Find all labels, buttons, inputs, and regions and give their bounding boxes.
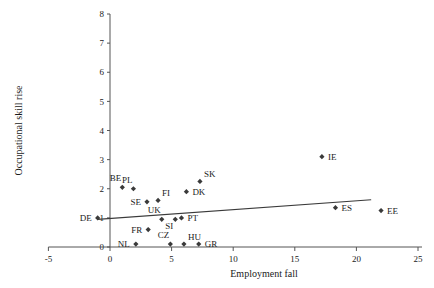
point-marker-pl [131,186,136,191]
point-marker-pt [179,215,184,220]
point-marker-gr [196,241,201,246]
point-label-gr: GR [205,239,218,249]
x-tick-label: 15 [290,254,300,264]
point-label-pt: PT [187,213,198,223]
point-marker-ie [319,154,324,159]
x-tick-label: 20 [352,254,362,264]
point-marker-be [120,185,125,190]
point-marker-hu [181,241,186,246]
point-label-se: SE [130,197,141,207]
point-label-dk: DK [192,187,205,197]
point-marker-nl [133,241,138,246]
point-marker-fr [146,227,151,232]
point-marker-dk [184,189,189,194]
point-label-uk: UK [148,205,161,215]
point-label-hu: HU [188,232,201,242]
point-label-ie: IE [328,152,337,162]
x-tick-label: -5 [45,254,53,264]
x-tick-label: 25 [414,254,424,264]
y-tick-label: 2 [100,184,105,194]
point-label-nl: NL [118,239,130,249]
point-label-de: DE [80,213,92,223]
point-label-cz: CZ [158,230,170,240]
scatter-chart: 012345678 -50510152025 DEBEPLNLSEFRFIUKC… [0,0,434,288]
y-tick-label: 5 [100,97,105,107]
y-tick-label: 1 [100,213,105,223]
x-axis-title: Employment fall [230,268,298,279]
point-marker-sk [197,179,202,184]
y-tick-label: 6 [100,67,105,77]
axis-titles: Employment fallOccupational skill rise [13,85,298,279]
point-marker-ee [378,208,383,213]
point-label-fr: FR [131,225,142,235]
x-tick-label: 0 [108,254,113,264]
point-label-si: SI [165,221,173,231]
point-marker-se [144,199,149,204]
y-axis-title: Occupational skill rise [13,85,24,176]
y-tick-label: 8 [100,9,105,19]
point-label-pl: PL [122,175,133,185]
y-tick-label: 7 [100,38,105,48]
point-label-sk: SK [204,169,216,179]
point-marker-uk [159,217,164,222]
point-label-ee: EE [387,206,398,216]
point-marker-si [173,217,178,222]
point-label-es: ES [341,203,352,213]
data-points: DEBEPLNLSEFRFIUKCZSIHUPTGRDKSKIEESEE [80,152,399,249]
y-tick-label: 3 [100,155,105,165]
y-axis: 012345678 [100,9,111,252]
y-tick-label: 4 [100,126,105,136]
point-label-be: BE [110,173,122,183]
point-marker-fi [155,198,160,203]
point-marker-es [333,205,338,210]
chart-canvas: 012345678 -50510152025 DEBEPLNLSEFRFIUKC… [0,0,434,288]
point-label-fi: FI [162,188,170,198]
point-marker-cz [168,241,173,246]
x-tick-label: 10 [229,254,239,264]
x-tick-label: 5 [169,254,174,264]
